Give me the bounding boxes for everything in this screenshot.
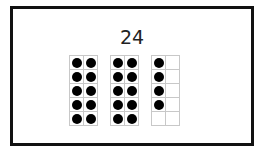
frame-cell <box>152 98 166 112</box>
counter-dot <box>113 58 123 68</box>
counter-dot <box>154 72 164 82</box>
frame-cell <box>84 84 98 98</box>
frame-cell <box>70 84 84 98</box>
counter-dot <box>86 86 96 96</box>
ten-frame-3 <box>151 55 180 126</box>
counter-dot <box>86 100 96 110</box>
frame-cell <box>166 56 180 70</box>
frame-cell <box>111 84 125 98</box>
frame-cell <box>70 56 84 70</box>
frame-cell <box>152 56 166 70</box>
counter-dot <box>127 58 137 68</box>
frame-cell <box>125 84 139 98</box>
counter-dot <box>154 58 164 68</box>
frame-cell <box>84 56 98 70</box>
counter-dot <box>72 114 82 124</box>
counter-dot <box>127 72 137 82</box>
frame-cell <box>125 98 139 112</box>
frame-cell <box>125 112 139 126</box>
counter-dot <box>127 86 137 96</box>
frame-cell <box>166 84 180 98</box>
counter-dot <box>154 100 164 110</box>
counter-dot <box>113 114 123 124</box>
frame-cell <box>84 112 98 126</box>
frame-cell <box>125 56 139 70</box>
counter-dot <box>72 86 82 96</box>
frame-cell <box>166 70 180 84</box>
counter-dot <box>72 72 82 82</box>
number-card: 24 <box>10 6 254 146</box>
frame-cell <box>111 70 125 84</box>
frame-cell <box>152 84 166 98</box>
frame-cell <box>152 112 166 126</box>
frame-cell <box>125 70 139 84</box>
counter-dot <box>113 100 123 110</box>
ten-frame-1 <box>69 55 98 126</box>
counter-dot <box>127 114 137 124</box>
frame-cell <box>166 112 180 126</box>
counter-dot <box>72 100 82 110</box>
frame-cell <box>70 112 84 126</box>
counter-dot <box>86 58 96 68</box>
counter-dot <box>113 86 123 96</box>
ten-frame-2 <box>110 55 139 126</box>
frame-cell <box>84 70 98 84</box>
frame-cell <box>111 112 125 126</box>
counter-dot <box>113 72 123 82</box>
frame-cell <box>84 98 98 112</box>
counter-dot <box>86 72 96 82</box>
frame-cell <box>70 70 84 84</box>
number-label: 24 <box>13 26 251 48</box>
counter-dot <box>154 86 164 96</box>
frame-cell <box>70 98 84 112</box>
frame-cell <box>111 98 125 112</box>
counter-dot <box>127 100 137 110</box>
counter-dot <box>72 58 82 68</box>
frame-cell <box>111 56 125 70</box>
frame-cell <box>166 98 180 112</box>
frame-cell <box>152 70 166 84</box>
counter-dot <box>86 114 96 124</box>
